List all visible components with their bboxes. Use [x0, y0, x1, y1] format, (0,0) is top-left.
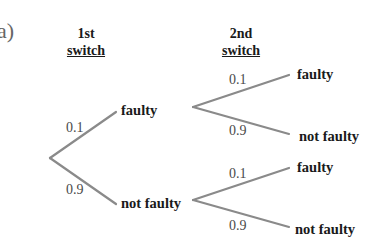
node-s2b-not-faulty: not faulty — [295, 222, 355, 237]
tree-branches — [0, 0, 386, 249]
prob-s2b-not-faulty: 0.9 — [229, 219, 247, 233]
branch-root-faulty — [50, 112, 116, 158]
prob-s1-not-faulty: 0.9 — [66, 183, 84, 197]
prob-s2b-faulty: 0.1 — [229, 167, 247, 181]
node-s1-not-faulty: not faulty — [121, 196, 181, 211]
prob-s1-faulty: 0.1 — [66, 121, 84, 135]
prob-s2a-not-faulty: 0.9 — [229, 124, 247, 138]
header-second-switch: 2nd switch — [217, 27, 265, 58]
part-label: a) — [0, 20, 14, 42]
header-first-line1: 1st — [77, 26, 94, 41]
header-second-line2: switch — [217, 44, 265, 58]
header-first-switch: 1st switch — [62, 27, 110, 58]
node-s2a-faulty: faulty — [297, 67, 333, 82]
node-s2b-faulty: faulty — [297, 160, 333, 175]
branch-root-not-faulty — [50, 158, 116, 204]
header-second-line1: 2nd — [230, 26, 253, 41]
header-first-line2: switch — [62, 44, 110, 58]
node-s2a-not-faulty: not faulty — [299, 129, 359, 144]
prob-s2a-faulty: 0.1 — [229, 73, 247, 87]
node-s1-faulty: faulty — [121, 103, 157, 118]
